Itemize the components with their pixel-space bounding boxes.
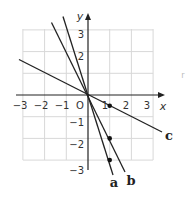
y-tick: 2 xyxy=(78,51,84,62)
x-tick: −2 xyxy=(34,100,49,111)
x-tick: −1 xyxy=(55,100,70,111)
x-axis-arrow-icon xyxy=(158,92,165,98)
y-axis-arrow-icon xyxy=(85,13,91,20)
x-axis-label: x xyxy=(159,100,167,113)
graph: −3 −2 −1 O 1 2 3 3 2 −1 −2 −3 x y a b c … xyxy=(0,0,186,199)
point-a xyxy=(107,158,112,163)
y-tick: 3 xyxy=(78,29,84,40)
x-tick: 2 xyxy=(123,100,129,111)
y-tick: −3 xyxy=(69,165,84,176)
axes xyxy=(16,13,165,170)
line-b-label: b xyxy=(126,173,135,188)
x-tick: −3 xyxy=(13,100,28,111)
point-b xyxy=(107,136,112,141)
origin-label: O xyxy=(76,100,84,111)
y-axis-label: y xyxy=(76,10,84,23)
line-a-label: a xyxy=(110,175,119,190)
y-tick: −2 xyxy=(69,139,84,150)
line-c-label: c xyxy=(165,128,173,143)
y-tick: −1 xyxy=(69,117,84,128)
stray-mark: r xyxy=(181,71,185,80)
x-tick: 3 xyxy=(144,100,150,111)
lines xyxy=(19,17,162,176)
x-tick: 1 xyxy=(102,100,108,111)
line-c xyxy=(19,60,162,133)
